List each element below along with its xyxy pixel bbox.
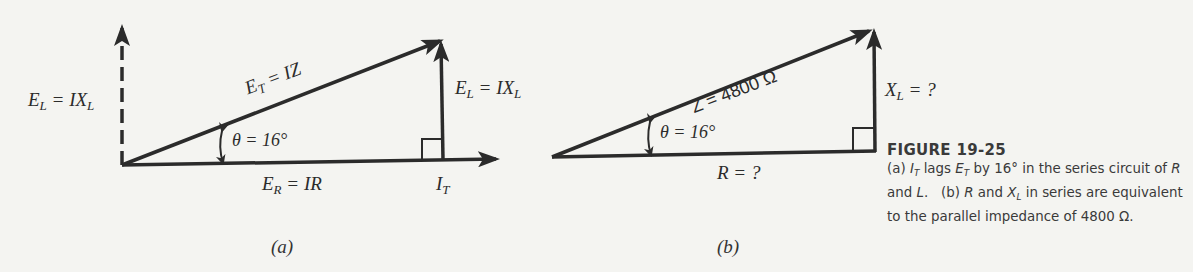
figure-caption: FIGURE 19-25 (a) IT lags ET by 16° in th… xyxy=(887,142,1187,226)
it-current-label: IT xyxy=(436,174,450,196)
panel-label-b: (b) xyxy=(717,236,739,258)
panel-label-a: (a) xyxy=(271,236,293,258)
right-angle-marker xyxy=(853,128,875,152)
figure-number: FIGURE 19-25 xyxy=(887,142,1187,159)
el-vertical-label: EL = IXL xyxy=(455,78,521,100)
er-base-label: ER = IR xyxy=(262,174,322,196)
diagram-a xyxy=(122,28,496,165)
angle-arc-arrow xyxy=(648,122,651,155)
right-angle-marker xyxy=(422,139,443,160)
el-dashed-label: EL = IXL xyxy=(28,90,94,112)
r-base-line xyxy=(552,151,876,157)
caption-body: (a) IT lags ET by 16° in the series circ… xyxy=(887,159,1187,226)
angle-label-b: θ = 16° xyxy=(660,123,715,141)
angle-label-a: θ = 16° xyxy=(232,131,287,149)
xl-vertical-phasor xyxy=(874,32,875,152)
r-base-label: R = ? xyxy=(717,163,760,182)
er-base-line xyxy=(122,159,496,165)
xl-vertical-label: XL = ? xyxy=(885,80,936,102)
phasor-diagrams xyxy=(0,0,1193,272)
el-vertical-phasor xyxy=(441,44,443,160)
angle-arc-arrow xyxy=(220,131,223,163)
